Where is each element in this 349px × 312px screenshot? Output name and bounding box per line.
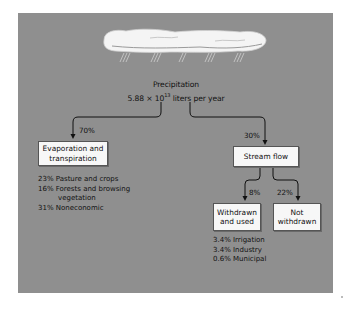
total-value: 5.88 × 10 <box>127 94 164 103</box>
detail-noneconomic: 31% Noneconomic <box>38 204 130 214</box>
not-withdrawn-percent: 22% <box>277 188 293 197</box>
detail-forests: 16% Forests and browsing <box>38 185 130 195</box>
evaporation-box: Evaporation and transpiration <box>38 141 108 166</box>
evaporation-percent: 70% <box>79 126 95 135</box>
detail-municipal: 0.6% Municipal <box>213 255 266 265</box>
stream-flow-box: Stream flow <box>233 146 299 167</box>
not-withdrawn-label-line2: withdrawn <box>278 217 317 227</box>
scan-speck <box>341 296 343 298</box>
stream-flow-percent: 30% <box>244 131 260 140</box>
withdrawn-percent: 8% <box>249 188 260 197</box>
stream-flow-label: Stream flow <box>244 151 288 162</box>
total-unit: liters per year <box>170 94 224 103</box>
detail-pasture: 23% Pasture and crops <box>38 175 130 185</box>
withdrawn-box: Withdrawn and used <box>213 203 261 231</box>
precipitation-total: 5.88 × 1013 liters per year <box>127 92 224 103</box>
withdrawn-details: 3.4% Irrigation 3.4% Industry 0.6% Munic… <box>213 236 266 265</box>
detail-forests-continuation: vegetation <box>38 194 130 204</box>
evaporation-label-line2: transpiration <box>49 154 96 164</box>
evaporation-label-line1: Evaporation and <box>43 144 104 154</box>
not-withdrawn-label-line1: Not <box>291 208 304 218</box>
not-withdrawn-box: Not withdrawn <box>273 203 321 231</box>
evaporation-details: 23% Pasture and crops 16% Forests and br… <box>38 175 130 213</box>
withdrawn-label-line2: and used <box>220 217 254 227</box>
detail-industry: 3.4% Industry <box>213 246 266 256</box>
precipitation-title: Precipitation <box>153 80 199 89</box>
rain-cloud-icon <box>104 29 266 62</box>
detail-irrigation: 3.4% Irrigation <box>213 236 266 246</box>
withdrawn-label-line1: Withdrawn <box>217 208 257 218</box>
